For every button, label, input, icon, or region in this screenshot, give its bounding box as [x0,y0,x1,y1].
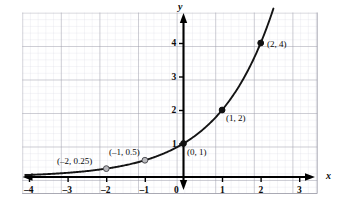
ytick-3: 3 [172,73,177,83]
ytick-4: 4 [172,39,177,49]
data-point-3 [219,107,225,113]
xtick-zero: 0 [174,186,179,196]
ytick-1: 1 [172,140,177,150]
data-point-1 [142,157,148,163]
graph-figure: x y –4 –3 –2 –1 0 1 2 3 1 2 3 4 (–2, 0.2… [0,0,344,210]
xtick-3: 3 [297,186,302,196]
point-label-0: (0, 1) [187,148,207,157]
y-axis-label: y [178,2,182,12]
xtick-neg4: –4 [24,186,34,196]
point-label-1: (1, 2) [226,114,246,123]
point-label-2: (2, 4) [267,40,287,49]
x-axis-label: x [326,171,331,181]
data-point-0 [103,166,109,172]
xtick-2: 2 [259,186,264,196]
ytick-2: 2 [172,106,177,116]
xtick-neg1: –1 [140,186,150,196]
xtick-1: 1 [220,186,225,196]
point-label-neg1: (–1, 0.5) [109,148,140,157]
point-label-neg2: (–2, 0.25) [57,157,92,166]
data-point-4 [258,40,264,46]
xtick-neg3: –3 [63,186,73,196]
data-point-2 [181,141,187,147]
xtick-neg2: –2 [101,186,111,196]
